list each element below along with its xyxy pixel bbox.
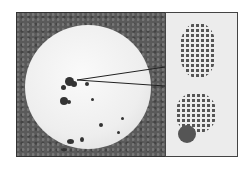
figure [0,0,248,171]
zoom-callout-lines [0,0,248,171]
